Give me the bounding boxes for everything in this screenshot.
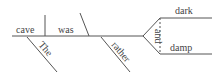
complement-divider [80, 13, 89, 36]
conjunction-word: and [153, 29, 164, 43]
subject-word: cave [16, 24, 35, 35]
predicate-adjective-2: damp [170, 42, 192, 53]
sentence-diagram: cave was The rather and dark damp [0, 0, 221, 78]
predicate-adjective-1: dark [175, 5, 193, 16]
article-word: The [36, 39, 55, 58]
verb-word: was [58, 24, 74, 35]
